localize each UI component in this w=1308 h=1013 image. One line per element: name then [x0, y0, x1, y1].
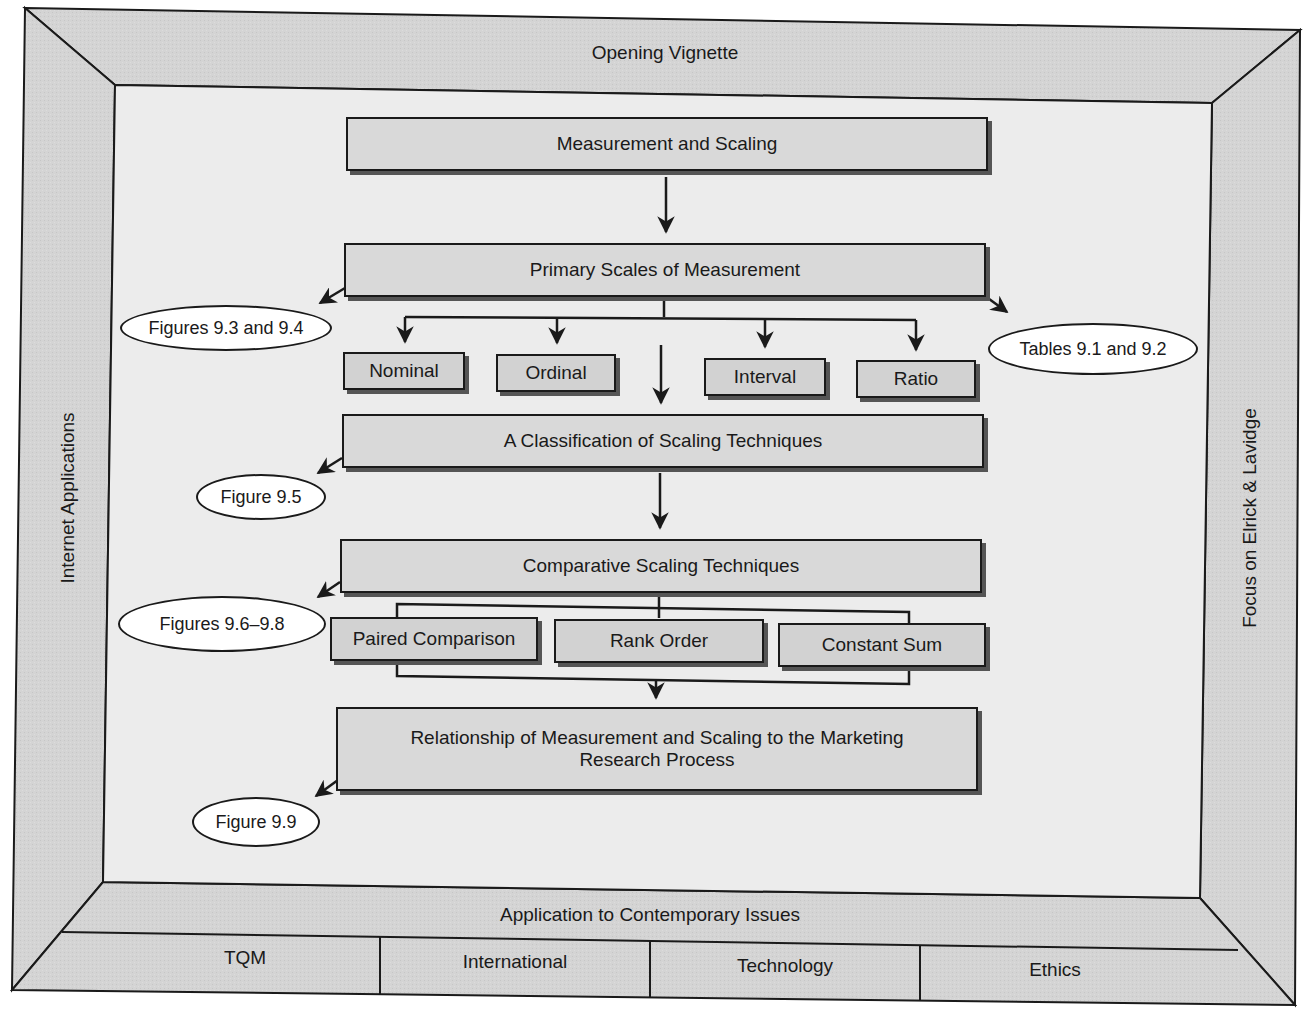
nominal-box: Nominal [343, 352, 465, 390]
chapter-overview-diagram: Opening Vignette Internet Applications F… [0, 0, 1308, 1013]
interval-box: Interval [704, 358, 826, 396]
primary-scales-box: Primary Scales of Measurement [344, 243, 986, 297]
measurement-and-scaling-box: Measurement and Scaling [346, 117, 988, 171]
ratio-box: Ratio [856, 360, 976, 398]
contemporary-issues-label: Application to Contemporary Issues [440, 904, 860, 926]
opening-vignette-label: Opening Vignette [560, 42, 770, 64]
classification-box: A Classification of Scaling Techniques [342, 414, 984, 468]
callout-figures-9-3-9-4: Figures 9.3 and 9.4 [120, 305, 332, 351]
paired-comparison-box: Paired Comparison [330, 617, 538, 661]
comparative-scaling-box: Comparative Scaling Techniques [340, 539, 982, 593]
cell-ethics: Ethics [920, 956, 1190, 984]
cell-international: International [380, 948, 650, 976]
callout-tables-9-1-9-2: Tables 9.1 and 9.2 [988, 323, 1198, 375]
internet-applications-label: Internet Applications [57, 398, 79, 598]
cell-tqm: TQM [110, 944, 380, 972]
focus-on-elrick-lavidge-label: Focus on Elrick & Lavidge [1239, 408, 1261, 628]
relationship-box: Relationship of Measurement and Scaling … [336, 707, 978, 791]
ordinal-box: Ordinal [496, 354, 616, 392]
constant-sum-box: Constant Sum [778, 623, 986, 667]
cell-technology: Technology [650, 952, 920, 980]
rank-order-box: Rank Order [554, 619, 764, 663]
callout-figures-9-6-9-8: Figures 9.6–9.8 [118, 596, 326, 652]
callout-figure-9-9: Figure 9.9 [192, 797, 320, 847]
callout-figure-9-5: Figure 9.5 [196, 474, 326, 520]
